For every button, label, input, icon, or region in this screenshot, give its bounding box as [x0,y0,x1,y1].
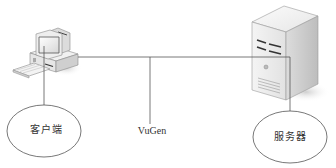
server-tower-icon [252,6,330,102]
desktop-computer-icon [13,28,82,78]
diagram-svg [0,0,336,168]
vugen-label: VuGen [138,126,166,136]
client-label: 客户端 [30,125,63,135]
diagram-canvas: 客户端 VuGen 服务器 [0,0,336,168]
server-label: 服务器 [274,132,307,142]
